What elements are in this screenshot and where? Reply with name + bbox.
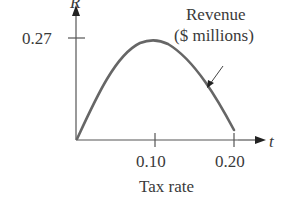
- annotation-arrow: [210, 66, 223, 84]
- x-axis-title: Tax rate: [139, 178, 194, 195]
- x-tick-label-2: 0.20: [215, 153, 245, 170]
- revenue-curve: [77, 40, 234, 139]
- annotation-arrowhead-icon: [207, 80, 214, 88]
- annotation-line1: Revenue: [186, 6, 245, 23]
- y-axis-symbol: R: [70, 0, 80, 11]
- annotation-line2: ($ millions): [174, 27, 254, 44]
- x-axis-arrow-icon: [255, 136, 266, 144]
- x-axis-symbol: t: [269, 133, 274, 150]
- x-tick-label-1: 0.10: [136, 153, 166, 170]
- y-tick-label: 0.27: [22, 30, 52, 47]
